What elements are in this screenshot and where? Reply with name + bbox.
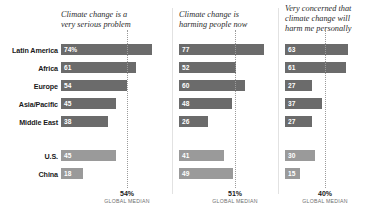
bar-value-label: 49	[182, 169, 189, 178]
row-label-africa: Africa	[38, 63, 58, 74]
bar: 48	[179, 98, 232, 109]
bar: 54	[61, 80, 127, 91]
bar-value-label: 18	[64, 169, 71, 178]
bar-value-label: 52	[182, 63, 189, 72]
global-median-caption: 51%GLOBAL MEDIAN	[212, 190, 257, 205]
row-label-gutter: Latin AmericaAfricaEuropeAsia/PacificMid…	[0, 0, 58, 221]
bar: 49	[179, 168, 233, 179]
bar: 30	[285, 150, 315, 161]
global-median-percent: 51%	[212, 190, 257, 198]
bar: 37	[285, 98, 322, 109]
global-median-caption: 40%GLOBAL MEDIAN	[302, 190, 347, 205]
bar-value-label: 63	[288, 45, 295, 54]
row-label-china: China	[39, 169, 58, 180]
panel-1: Climate change is avery serious problem7…	[58, 0, 183, 221]
bar-value-label: 27	[288, 81, 295, 90]
global-median-sublabel: GLOBAL MEDIAN	[104, 198, 149, 205]
bar: 74%	[61, 44, 152, 55]
climate-change-bar-chart: Latin AmericaAfricaEuropeAsia/PacificMid…	[0, 0, 370, 221]
bar-value-label: 48	[182, 99, 189, 108]
panel-title-line-2: very serious problem	[61, 20, 186, 30]
panel-title-3: Very concerned thatclimate change willha…	[285, 4, 370, 35]
bar: 27	[285, 116, 312, 127]
bar-value-label: 41	[182, 151, 189, 160]
panel-title-line-1: Very concerned that	[285, 4, 370, 14]
global-median-caption: 54%GLOBAL MEDIAN	[104, 190, 149, 205]
bar: 18	[61, 168, 83, 179]
panel-title-1: Climate change is avery serious problem	[61, 10, 186, 30]
panel-title-line-1: Climate change is	[179, 10, 294, 20]
global-median-line	[235, 30, 236, 188]
panel-title-line-2: harming people now	[179, 20, 294, 30]
bar: 61	[61, 62, 136, 73]
row-label-u-s: U.S.	[44, 151, 58, 162]
bar-value-label: 30	[288, 151, 295, 160]
global-median-line	[325, 30, 326, 188]
bar-value-label: 45	[64, 151, 71, 160]
global-median-sublabel: GLOBAL MEDIAN	[302, 198, 347, 205]
panel-title-2: Climate change isharming people now	[179, 10, 294, 30]
bar-value-label: 77	[182, 45, 189, 54]
bar: 45	[61, 150, 116, 161]
global-median-sublabel: GLOBAL MEDIAN	[212, 198, 257, 205]
bar-value-label: 27	[288, 117, 295, 126]
global-median-percent: 54%	[104, 190, 149, 198]
global-median-percent: 40%	[302, 190, 347, 198]
bar-value-label: 45	[64, 99, 71, 108]
row-label-europe: Europe	[34, 81, 58, 92]
panel-title-line-2: climate change will	[285, 14, 370, 24]
bar-value-label: 61	[288, 63, 295, 72]
bar: 15	[285, 168, 300, 179]
bar-value-label: 26	[182, 117, 189, 126]
panel-2: Climate change isharming people now77526…	[176, 0, 291, 221]
bar: 27	[285, 80, 312, 91]
bar: 77	[179, 44, 264, 55]
row-label-latin-america: Latin America	[12, 45, 58, 56]
bar: 26	[179, 116, 208, 127]
bar-value-label: 74%	[64, 45, 77, 54]
bar-value-label: 38	[64, 117, 71, 126]
row-label-middle-east: Middle East	[19, 117, 58, 128]
bar: 63	[285, 44, 348, 55]
row-label-asia-pacific: Asia/Pacific	[19, 99, 58, 110]
bar: 52	[179, 62, 236, 73]
bar: 38	[61, 116, 108, 127]
bar-value-label: 61	[64, 63, 71, 72]
panel-title-line-1: Climate change is a	[61, 10, 186, 20]
panel-3: Very concerned thatclimate change willha…	[282, 0, 370, 221]
bar: 41	[179, 150, 224, 161]
global-median-line	[127, 30, 128, 188]
bar-value-label: 54	[64, 81, 71, 90]
bar: 61	[285, 62, 346, 73]
bar: 45	[61, 98, 116, 109]
bar-value-label: 60	[182, 81, 189, 90]
bar-value-label: 37	[288, 99, 295, 108]
bar-value-label: 15	[288, 169, 295, 178]
panel-title-line-3: harm me personally	[285, 24, 370, 34]
